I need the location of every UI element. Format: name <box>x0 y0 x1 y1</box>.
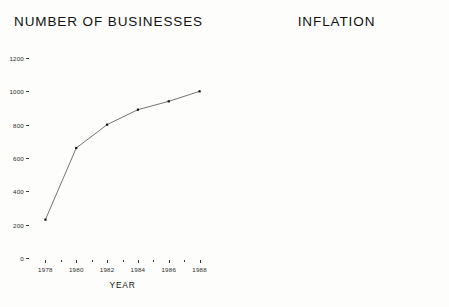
x-tick-label: 1982 <box>100 266 115 273</box>
x-tick-mark-minor <box>92 260 93 262</box>
chart-title-inflation: INFLATION <box>224 14 449 29</box>
x-tick-label: 1978 <box>38 266 53 273</box>
chart-title-businesses: NUMBER OF BUSINESSES <box>0 14 221 29</box>
x-axis-businesses: 197819801982198419861988 <box>30 58 215 258</box>
x-tick-mark <box>107 260 108 263</box>
y-tick-label: 1000 <box>9 88 24 95</box>
y-tick-mark <box>26 225 29 226</box>
x-tick-mark <box>45 260 46 263</box>
y-tick-label: 1200 <box>9 55 24 62</box>
x-tick-mark <box>76 260 77 263</box>
x-tick-mark-minor <box>184 260 185 262</box>
x-tick-label: 1984 <box>131 266 146 273</box>
y-tick-mark <box>26 125 29 126</box>
figure-canvas: NUMBER OF BUSINESSES 0200400600800100012… <box>0 0 449 307</box>
y-tick-label: 600 <box>13 155 24 162</box>
chart-panel-businesses: NUMBER OF BUSINESSES 0200400600800100012… <box>0 0 225 307</box>
x-tick-label: 1988 <box>192 266 207 273</box>
y-tick-label: 400 <box>13 188 24 195</box>
x-tick-mark-minor <box>123 260 124 262</box>
x-tick-mark-minor <box>61 260 62 262</box>
y-tick-mark <box>26 258 29 259</box>
y-tick-mark <box>26 58 29 59</box>
y-tick-label: 800 <box>13 121 24 128</box>
y-tick-label: 200 <box>13 221 24 228</box>
y-tick-label: 0 <box>20 255 24 262</box>
x-tick-mark <box>138 260 139 263</box>
y-tick-mark <box>26 158 29 159</box>
y-tick-mark <box>26 191 29 192</box>
x-tick-label: 1986 <box>161 266 176 273</box>
chart-panel-inflation: INFLATION 0%5%10%15%20%25%30% 1976197819… <box>224 0 449 307</box>
x-tick-mark <box>169 260 170 263</box>
x-axis-title-businesses: YEAR <box>109 280 135 290</box>
plot-area-businesses: 020040060080010001200 197819801982198419… <box>30 58 215 258</box>
x-tick-mark-minor <box>153 260 154 262</box>
y-tick-mark <box>26 91 29 92</box>
x-tick-label: 1980 <box>69 266 84 273</box>
x-tick-mark <box>200 260 201 263</box>
